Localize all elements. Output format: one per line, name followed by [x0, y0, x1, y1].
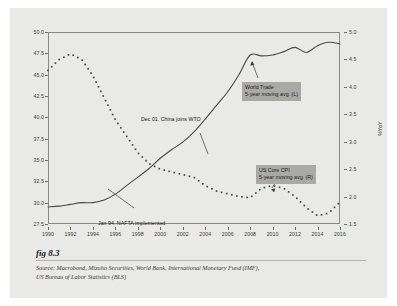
- series-dot: [68, 54, 70, 56]
- x-tick: 2006: [222, 231, 234, 237]
- x-tickmark: [160, 227, 161, 230]
- figure-source-line1: Source: Macrobond, Mizuho Securities, Wo…: [36, 263, 376, 272]
- y-tickmark-right: [344, 169, 347, 170]
- x-tick: 2014: [312, 231, 324, 237]
- series-dot: [84, 64, 86, 66]
- series-dot: [132, 144, 134, 146]
- series-dot: [145, 160, 147, 162]
- figure-divider: [36, 260, 366, 261]
- y-tick-right: 4.0: [349, 84, 357, 90]
- y-tickmark-right: [344, 32, 347, 33]
- x-tick: 1996: [109, 231, 121, 237]
- x-tickmark: [93, 227, 94, 230]
- x-tick: 2010: [267, 231, 279, 237]
- x-tick: 2016: [334, 231, 346, 237]
- y-axis-right-title: %YoY: [377, 122, 383, 137]
- y-tickmark-right: [344, 87, 347, 88]
- left-axis-ticks: 27.530.032.535.037.540.042.545.047.550.0: [20, 32, 44, 224]
- series-dot: [246, 197, 248, 199]
- leader-arrow-cpi: [271, 188, 275, 192]
- series-dot: [138, 153, 140, 155]
- series-dot: [100, 91, 102, 93]
- y-tick-left: 30.0: [34, 200, 45, 206]
- series-dot: [241, 196, 243, 198]
- x-tick: 1990: [42, 231, 54, 237]
- series-dot: [158, 168, 160, 170]
- y-tick-left: 47.5: [34, 50, 45, 56]
- series-dot: [154, 166, 156, 168]
- figure-source-line2: US Bureau of Labor Statistics (BLS): [36, 272, 376, 281]
- series-dot: [123, 131, 125, 133]
- series-dot: [168, 170, 170, 172]
- y-tickmark-right: [344, 224, 347, 225]
- series-dot: [90, 72, 92, 74]
- figure-container: 27.530.032.535.037.540.042.545.047.550.0…: [10, 8, 387, 298]
- y-tickmark-right: [344, 197, 347, 198]
- y-tick-right: 3.0: [349, 139, 357, 145]
- y-tick-left: 40.0: [34, 114, 45, 120]
- plot-area: [48, 32, 340, 224]
- series-dot: [126, 136, 128, 138]
- y-tick-left: 37.5: [34, 136, 45, 142]
- series-dot: [216, 190, 218, 192]
- series-dot: [202, 183, 204, 185]
- x-tickmark: [138, 227, 139, 230]
- y-tick-left: 27.5: [34, 221, 45, 227]
- series-dot: [221, 192, 223, 194]
- legend-us-core-cpi-line1: US Core CPI: [259, 167, 313, 174]
- series-dot: [279, 186, 281, 188]
- series-dot: [58, 59, 60, 61]
- x-tick: 2000: [154, 231, 166, 237]
- x-tickmark: [295, 227, 296, 230]
- y-tick-right: 1.5: [349, 221, 357, 227]
- x-tickmark: [250, 227, 251, 230]
- x-tick: 2004: [199, 231, 211, 237]
- series-dot: [326, 213, 328, 215]
- series-dot: [211, 188, 213, 190]
- x-axis-ticks: 1990199219941996199820002002200420062008…: [48, 227, 340, 239]
- series-dot: [149, 163, 151, 165]
- series-dot: [334, 207, 336, 209]
- series-dot: [129, 140, 131, 142]
- right-axis-ticks: 1.52.02.53.03.54.04.55.0: [344, 32, 370, 224]
- y-tick-right: 2.0: [349, 194, 357, 200]
- series-dot: [296, 197, 298, 199]
- x-tickmark: [183, 227, 184, 230]
- series-dot: [303, 205, 305, 207]
- series-dot: [55, 62, 57, 64]
- x-tick: 2008: [244, 231, 256, 237]
- legend-world-trade-line2: 5-year moving avg. (L): [245, 91, 298, 98]
- x-tickmark: [340, 227, 341, 230]
- x-tick: 2012: [289, 231, 301, 237]
- x-tickmark: [115, 227, 116, 230]
- series-dot: [189, 175, 191, 177]
- y-tick-left: 42.5: [34, 93, 45, 99]
- y-tick-left: 35.0: [34, 157, 45, 163]
- series-dot: [312, 211, 314, 213]
- series-dot: [120, 127, 122, 129]
- series-dot: [337, 203, 339, 205]
- series-dot: [81, 59, 83, 61]
- series-dot: [226, 193, 228, 195]
- x-tick: 1998: [132, 231, 144, 237]
- series-dot: [141, 156, 143, 158]
- series-dot: [63, 56, 65, 58]
- series-dot: [255, 192, 257, 194]
- leader-arrow-trade: [250, 61, 254, 65]
- y-tick-left: 45.0: [34, 72, 45, 78]
- series-dot: [135, 148, 137, 150]
- series-dot: [163, 169, 165, 171]
- legend-callout-world-trade: World Trade 5-year moving avg. (L): [242, 82, 301, 101]
- series-dot: [117, 123, 119, 125]
- series-dot: [173, 172, 175, 174]
- series-dot: [114, 118, 116, 120]
- series-dot: [321, 214, 323, 216]
- series-dot: [330, 210, 332, 212]
- series-dot: [51, 66, 53, 68]
- leader-line-wto: [200, 133, 208, 154]
- x-tick: 1994: [87, 231, 99, 237]
- x-tickmark: [273, 227, 274, 230]
- x-tickmark: [48, 227, 49, 230]
- series-dot: [194, 177, 196, 179]
- y-tick-left: 32.5: [34, 178, 45, 184]
